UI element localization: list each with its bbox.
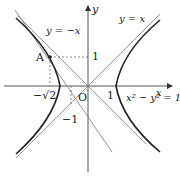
asymptote-y-eq-neg-x	[18, 16, 146, 144]
asymptote-pos-label: y = x	[119, 14, 145, 24]
curve-equation-label: x² − y² = 1	[126, 93, 180, 103]
tick-x-1-label: 1	[107, 90, 114, 101]
asymptote-neg-label: y = −x	[46, 26, 80, 36]
tick-y-1-label: 1	[92, 51, 99, 62]
point-a-marker	[48, 55, 52, 59]
origin-label: O	[78, 92, 87, 103]
point-a-label: A	[36, 52, 44, 63]
y-axis-label: y	[92, 4, 98, 15]
tick-y-neg1-label: −1	[62, 114, 78, 125]
diagram-canvas	[0, 0, 180, 176]
tick-neg-sqrt2-label: −√2	[33, 90, 56, 101]
hyperbola-diagram: y x y = x y = −x A 1 −√2 O 1 −1 x² − y² …	[0, 0, 180, 176]
